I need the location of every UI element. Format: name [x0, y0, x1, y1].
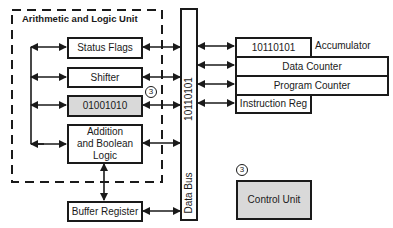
status-flags-label: Status Flags	[77, 42, 133, 54]
control-unit-box: Control Unit	[236, 180, 312, 220]
control-unit-step-marker: 3	[236, 164, 248, 176]
program-counter-box: Program Counter	[235, 75, 389, 96]
buffer-register-box: Buffer Register	[67, 201, 143, 222]
instruction-reg-label: Instruction Reg	[240, 98, 307, 110]
instruction-reg-box: Instruction Reg	[235, 94, 312, 114]
data-counter-box: Data Counter	[235, 56, 389, 77]
accumulator-box: 10110101	[235, 37, 312, 58]
alu-title: Arithmetic and Logic Unit	[22, 13, 138, 24]
control-unit-label: Control Unit	[248, 194, 301, 206]
logic-line-3: Logic	[93, 150, 117, 162]
addition-boolean-logic-box: Addition and Boolean Logic	[67, 124, 143, 164]
data-counter-label: Data Counter	[282, 61, 341, 73]
shifter-box: Shifter	[67, 67, 143, 88]
data-bus-label: Data Bus	[183, 163, 195, 223]
buffer-register-label: Buffer Register	[72, 206, 139, 218]
logic-line-2: and Boolean	[77, 138, 133, 150]
program-counter-label: Program Counter	[274, 80, 351, 92]
alu-register-box: 01001010	[67, 95, 143, 117]
accumulator-value: 10110101	[252, 42, 296, 54]
alu-step-marker: 3	[145, 86, 157, 98]
shifter-label: Shifter	[91, 72, 120, 84]
status-flags-box: Status Flags	[67, 37, 143, 59]
logic-line-1: Addition	[87, 126, 123, 138]
data-bus-value: 10110101	[183, 69, 195, 129]
alu-register-value: 01001010	[83, 100, 128, 112]
accumulator-label: Accumulator	[315, 40, 371, 51]
